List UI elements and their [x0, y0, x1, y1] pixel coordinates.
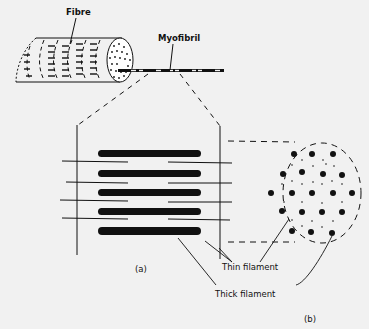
myofibril-label: Myofibril: [158, 34, 200, 43]
myofibril-strand: [118, 69, 224, 72]
thick-filament-label: Thick filament: [215, 290, 275, 299]
thin-filament-leaders: [205, 219, 289, 262]
panel-b-label: (b): [304, 315, 316, 324]
panel-a-label: (a): [135, 265, 147, 274]
cross-section-connectors: [228, 141, 295, 242]
myofibril-leader-line: [170, 44, 173, 70]
muscle-fibre-cylinder: [16, 38, 133, 82]
muscle-structure-diagram: [0, 0, 369, 329]
fibre-label: Fibre: [66, 8, 91, 17]
sarcomere-longitudinal: [60, 125, 232, 259]
fibre-leader-line: [70, 18, 76, 44]
thin-filament-label: Thin filament: [222, 263, 278, 272]
thick-filament-dots: [268, 151, 355, 236]
sarcomere-cross-section: [268, 143, 361, 243]
thick-filament-leaders: [178, 236, 332, 285]
